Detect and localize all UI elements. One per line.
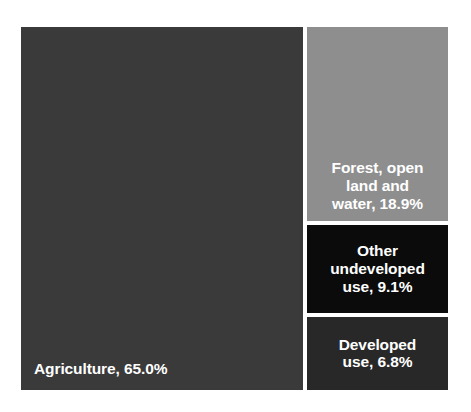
treemap-plot-area: Agriculture, 65.0% Forest, open land and… xyxy=(21,27,448,390)
treemap-tile-agriculture[interactable]: Agriculture, 65.0% xyxy=(21,27,303,390)
treemap-tile-label-forest-open-land-and-water: Forest, open land and water, 18.9% xyxy=(307,159,448,213)
treemap-tile-developed-use[interactable]: Developed use, 6.8% xyxy=(307,317,448,390)
treemap-tile-other-undeveloped-use[interactable]: Other undeveloped use, 9.1% xyxy=(307,225,448,313)
treemap-tile-forest-open-land-and-water[interactable]: Forest, open land and water, 18.9% xyxy=(307,27,448,221)
treemap-tile-label-developed-use: Developed use, 6.8% xyxy=(307,336,448,372)
treemap-tile-label-agriculture: Agriculture, 65.0% xyxy=(34,360,295,378)
treemap-chart: Agriculture, 65.0% Forest, open land and… xyxy=(0,0,471,412)
treemap-tile-label-other-undeveloped-use: Other undeveloped use, 9.1% xyxy=(307,242,448,296)
